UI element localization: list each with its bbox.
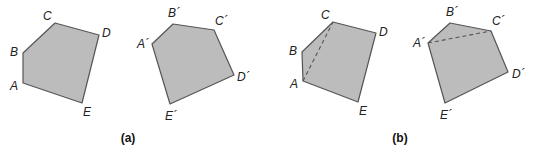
caption-a: (a) [121, 131, 136, 145]
vertex-label: E´ [440, 108, 452, 122]
vertex-label: E [359, 104, 368, 118]
vertex-label: D´ [512, 67, 525, 81]
vertex-label: B [289, 44, 297, 58]
polygon-a-image [152, 24, 234, 104]
shapes-layer [23, 22, 508, 104]
vertex-label: A´ [136, 37, 149, 51]
vertex-label: A [289, 77, 298, 91]
vertex-label: C [43, 9, 52, 23]
polygon-a-original [23, 23, 99, 103]
polygon-b-image [428, 23, 508, 103]
vertex-label: D [102, 26, 111, 40]
vertex-label: D [379, 25, 388, 39]
vertex-label: C´ [492, 14, 505, 28]
vertex-label: D´ [237, 70, 250, 84]
vertex-label: A´ [412, 36, 425, 50]
polygon-congruence-diagram: ABCDEA´B´C´D´E´ABCDEA´B´C´D´E´ (a) (b) [0, 0, 533, 149]
vertex-label: E [83, 105, 92, 119]
vertex-label: B´ [168, 6, 180, 20]
captions-layer: (a) (b) [121, 131, 408, 145]
vertex-label: C´ [215, 14, 228, 28]
vertex-label: C [321, 8, 330, 22]
vertex-label: E´ [165, 109, 177, 123]
vertex-label: A [9, 79, 18, 93]
vertex-label: B [10, 45, 18, 59]
vertex-label: B´ [446, 5, 458, 19]
caption-b: (b) [392, 131, 407, 145]
